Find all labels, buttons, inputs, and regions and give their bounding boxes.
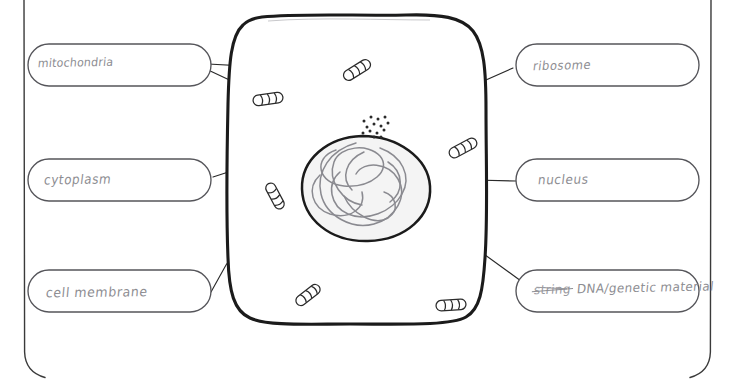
label-cell-membrane: cell membrane xyxy=(45,284,148,301)
worksheet-canvas: mitochondria cytoplasm cell membrane rib… xyxy=(0,0,749,379)
mitochondrion xyxy=(436,299,467,311)
label-ribosome: ribosome xyxy=(532,57,592,74)
label-mitochondria: mitochondria xyxy=(37,55,114,70)
label-nucleus: nucleus xyxy=(537,172,589,188)
label-dna-main-text: DNA/genetic material xyxy=(576,279,714,296)
label-dna-struck-word: string xyxy=(533,282,571,297)
label-cytoplasm: cytoplasm xyxy=(43,171,112,187)
